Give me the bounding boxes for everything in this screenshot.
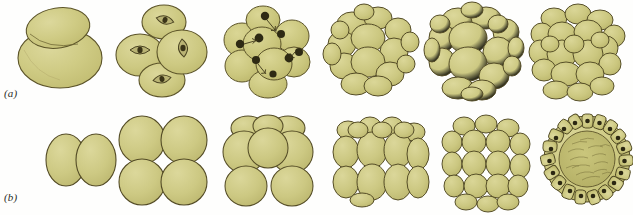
blastocoel-cavity bbox=[559, 131, 615, 187]
blastomere-group bbox=[333, 117, 429, 207]
row-label-a: (a) bbox=[4, 88, 17, 99]
stage-b-sixteen-cell-stage bbox=[332, 116, 430, 208]
figure-root: (a) bbox=[0, 0, 633, 215]
stage-b-two-cell-stage bbox=[38, 120, 124, 200]
stage-b-thirty-two-cell-stage bbox=[440, 114, 534, 208]
stage-a-thirty-two-cell-stage bbox=[424, 0, 526, 100]
stage-b-eight-cell-stage bbox=[222, 114, 318, 208]
blastomere-group bbox=[323, 4, 419, 96]
row-label-b: (b) bbox=[4, 192, 17, 203]
stage-a-two-cell-stage bbox=[8, 0, 118, 100]
blastomere-group bbox=[223, 115, 313, 206]
cleavage-row-a: (a) bbox=[0, 0, 633, 107]
stage-a-eight-cell-stage bbox=[218, 0, 320, 100]
blastomere-group bbox=[529, 4, 625, 101]
stage-a-four-cell-stage bbox=[112, 0, 214, 100]
stage-a-morula-stage bbox=[528, 0, 628, 100]
cleavage-row-b: (b) bbox=[0, 108, 633, 215]
stage-b-blastula-section bbox=[542, 112, 632, 206]
blastomere-group bbox=[119, 116, 207, 205]
blastomere-group bbox=[424, 2, 524, 101]
stage-b-four-cell-stage bbox=[116, 112, 212, 208]
blastomere-group bbox=[442, 115, 530, 212]
stage-a-sixteen-cell-stage bbox=[322, 0, 422, 100]
blastomere-group bbox=[46, 134, 116, 186]
